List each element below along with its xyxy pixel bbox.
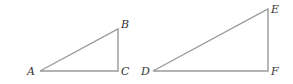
vertex-label-a: A	[26, 65, 35, 78]
triangle-abc	[40, 29, 118, 71]
similar-triangles-diagram: A B C D E F	[0, 0, 293, 84]
vertex-label-b: B	[120, 18, 129, 31]
triangle-def	[153, 9, 268, 71]
vertex-label-d: D	[140, 65, 150, 78]
vertex-label-e: E	[270, 3, 279, 16]
vertex-label-f: F	[270, 65, 279, 78]
vertex-label-c: C	[121, 65, 130, 78]
